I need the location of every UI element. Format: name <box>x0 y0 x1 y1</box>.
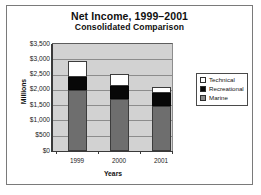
bar-segment-marine-1999 <box>68 90 87 151</box>
y-tick-label: $1,500 <box>16 101 50 108</box>
y-tick-label: $0 <box>16 147 50 154</box>
legend-swatch-recreational-icon <box>200 86 206 92</box>
legend-item-marine: Marine <box>200 94 244 102</box>
x-axis-title: Years <box>52 170 174 177</box>
y-tick-label: $2,500 <box>16 70 50 77</box>
bar-segment-technical-2001 <box>152 87 171 93</box>
x-tick-mark <box>98 151 99 154</box>
legend-label: Marine <box>209 94 228 102</box>
x-tick-label: 1999 <box>57 157 97 164</box>
title-block: Net Income, 1999–2001 Consolidated Compa… <box>6 10 253 33</box>
x-tick-mark <box>172 151 173 154</box>
bar-segment-marine-2001 <box>152 106 171 151</box>
bar-1999 <box>68 61 87 151</box>
legend-item-recreational: Recreational <box>200 85 244 93</box>
y-tick-label: $3,500 <box>16 40 50 47</box>
legend-swatch-marine-icon <box>200 95 206 101</box>
y-tick-label: $3,000 <box>16 55 50 62</box>
y-tick-label: $500 <box>16 131 50 138</box>
y-tick-label: $2,000 <box>16 85 50 92</box>
chart-figure: Net Income, 1999–2001 Consolidated Compa… <box>0 0 261 195</box>
x-tick-mark <box>140 151 141 154</box>
x-tick-label: 2000 <box>99 157 139 164</box>
bar-segment-recreational-2001 <box>152 93 171 106</box>
chart-title: Net Income, 1999–2001 <box>6 10 253 22</box>
bar-segment-recreational-1999 <box>68 77 87 90</box>
bar-segment-technical-1999 <box>68 61 87 77</box>
x-axis-tick-labels: 199920002001 <box>52 157 174 169</box>
bar-segment-technical-2000 <box>110 74 129 86</box>
legend-item-technical: Technical <box>200 76 244 84</box>
legend: TechnicalRecreationalMarine <box>196 73 248 106</box>
plot-area <box>52 43 173 151</box>
legend-label: Recreational <box>209 85 244 93</box>
bar-2000 <box>110 74 129 151</box>
y-tick-label: $1,000 <box>16 116 50 123</box>
y-axis-line <box>51 44 53 152</box>
legend-label: Technical <box>209 76 235 84</box>
y-axis-tick-labels: $3,500$3,000$2,500$2,000$1,500$1,000$500… <box>14 43 50 150</box>
bar-2001 <box>152 87 171 151</box>
bar-segment-recreational-2000 <box>110 86 129 99</box>
legend-swatch-technical-icon <box>200 77 206 83</box>
chart-subtitle: Consolidated Comparison <box>6 22 253 33</box>
bar-segment-marine-2000 <box>110 99 129 151</box>
x-tick-label: 2001 <box>141 157 181 164</box>
x-tick-mark <box>56 151 57 154</box>
